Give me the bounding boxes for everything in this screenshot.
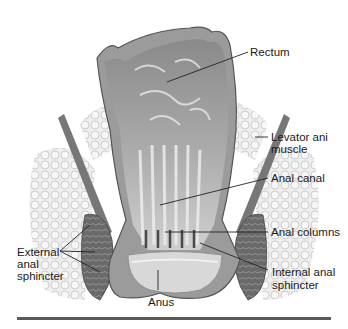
label-levator-ani-line2: muscle [271,143,307,155]
label-anal-columns: Anal columns [271,226,340,238]
label-external-sphincter-line3: sphincter [17,270,64,282]
label-levator-ani: Levator ani [271,131,328,143]
label-rectum: Rectum [250,46,290,58]
rectal-lumen [104,39,229,250]
label-internal-sphincter-line2: sphincter [272,279,319,291]
bottom-rule [17,317,331,320]
label-internal-sphincter: Internal anal [272,266,335,278]
label-anal-canal: Anal canal [271,172,325,184]
label-external-sphincter-line2: anal [17,258,39,270]
label-anus: Anus [148,296,174,308]
label-external-sphincter: External [17,246,59,258]
